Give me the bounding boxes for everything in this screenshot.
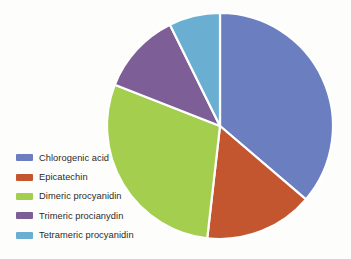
legend-swatch-icon: [16, 193, 33, 200]
legend-item[interactable]: Epicatechin: [16, 167, 166, 186]
legend-item[interactable]: Trimeric procianydin: [16, 206, 166, 225]
chart-legend: Chlorogenic acid Epicatechin Dimeric pro…: [16, 148, 166, 245]
legend-swatch-icon: [16, 232, 33, 239]
legend-item-label: Trimeric procianydin: [39, 211, 123, 221]
legend-swatch-icon: [16, 174, 33, 181]
legend-item-label: Chlorogenic acid: [39, 153, 109, 163]
legend-swatch-icon: [16, 212, 33, 219]
legend-item-label: Dimeric procyanidin: [39, 191, 122, 201]
legend-item-label: Tetrameric procyanidin: [39, 230, 134, 240]
legend-item-label: Epicatechin: [39, 172, 88, 182]
legend-item[interactable]: Tetrameric procyanidin: [16, 226, 166, 245]
legend-item[interactable]: Chlorogenic acid: [16, 148, 166, 167]
pie-chart-figure: Chlorogenic acid Epicatechin Dimeric pro…: [0, 0, 351, 259]
legend-swatch-icon: [16, 154, 33, 161]
legend-item[interactable]: Dimeric procyanidin: [16, 187, 166, 206]
